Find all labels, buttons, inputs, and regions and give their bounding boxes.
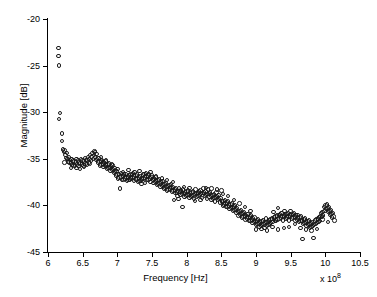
x-tick: [221, 252, 222, 257]
y-tick-label: -45: [4, 247, 40, 257]
data-point-marker: [182, 185, 186, 189]
x-tick: [48, 252, 49, 257]
data-point-marker: [193, 199, 197, 203]
scatter-chart-figure: 66.577.588.599.51010.5 -20-25-30-35-40-4…: [0, 0, 377, 297]
data-point-marker: [300, 237, 304, 241]
data-point-marker: [259, 227, 263, 231]
data-point-marker: [320, 217, 324, 221]
data-point-marker: [270, 225, 274, 229]
x-axis-multiplier-base: x 10: [320, 274, 337, 284]
data-point-marker: [298, 226, 302, 230]
data-point-marker: [315, 227, 319, 231]
x-axis-label-text: Frequency [Hz]: [143, 272, 207, 283]
data-point-marker: [248, 209, 252, 213]
data-point-marker: [69, 166, 73, 170]
data-point-marker: [311, 236, 315, 240]
data-point-marker: [121, 170, 125, 174]
data-point-marker: [99, 155, 103, 159]
data-point-marker: [226, 194, 230, 198]
data-point-marker: [237, 201, 241, 205]
data-point-marker: [293, 222, 297, 226]
data-point-marker: [118, 186, 122, 190]
y-axis-label: Magnitude [dB]: [18, 46, 29, 186]
x-tick: [152, 252, 153, 257]
data-point-marker: [282, 226, 286, 230]
data-point-marker: [198, 198, 202, 202]
data-point-marker: [332, 218, 336, 222]
data-point-marker: [62, 160, 66, 164]
data-point-marker: [74, 157, 78, 161]
x-tick-label: 10.5: [340, 258, 377, 269]
data-point-marker: [265, 228, 269, 232]
data-point-marker: [209, 186, 213, 190]
y-tick-label: -40: [4, 200, 40, 210]
data-point-marker: [232, 198, 236, 202]
x-tick: [325, 252, 326, 257]
y-tick-label: -20: [4, 14, 40, 24]
x-tick: [187, 252, 188, 257]
data-point-marker: [115, 167, 119, 171]
data-point-marker: [110, 162, 114, 166]
data-point-marker: [154, 174, 158, 178]
data-point-marker: [87, 161, 91, 165]
x-tick: [83, 252, 84, 257]
plot-data-area: [48, 19, 360, 252]
y-tick: [43, 252, 48, 253]
data-point-marker: [309, 228, 313, 232]
data-point-marker: [221, 192, 225, 196]
x-axis-line: [47, 252, 361, 253]
data-point-marker: [171, 180, 175, 184]
x-tick: [256, 252, 257, 257]
x-tick: [291, 252, 292, 257]
data-point-marker: [56, 46, 60, 50]
data-point-marker: [243, 205, 247, 209]
data-point-marker: [60, 131, 64, 135]
data-point-marker: [126, 168, 130, 172]
data-point-marker: [180, 205, 184, 209]
data-point-marker: [326, 220, 330, 224]
data-point-marker: [276, 227, 280, 231]
data-point-marker: [148, 170, 152, 174]
data-point-marker: [176, 197, 180, 201]
data-point-marker: [287, 225, 291, 229]
x-axis-multiplier: x 108: [320, 272, 341, 284]
data-point-marker: [57, 63, 61, 67]
x-tick: [360, 252, 361, 257]
data-point-marker: [58, 111, 62, 115]
data-point-marker: [187, 186, 191, 190]
data-point-marker: [57, 117, 61, 121]
data-point-marker: [276, 206, 280, 210]
data-point-marker: [137, 169, 141, 173]
data-point-marker: [304, 227, 308, 231]
data-point-marker: [82, 165, 86, 169]
x-axis-multiplier-exponent: 8: [337, 272, 341, 279]
x-tick: [117, 252, 118, 257]
data-point-marker: [60, 139, 64, 143]
data-point-marker: [143, 181, 147, 185]
data-point-marker: [56, 54, 60, 58]
data-point-marker: [160, 176, 164, 180]
data-point-marker: [254, 227, 258, 231]
